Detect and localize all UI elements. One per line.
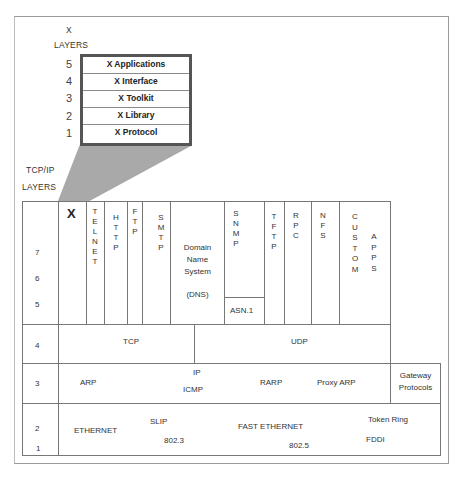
protocol-tftp-cell: T F T P — [264, 201, 285, 325]
layer-number-5: 5 — [35, 300, 39, 309]
protocol-proxy-arp: Proxy ARP — [317, 378, 356, 387]
protocol-tftp: T F T P — [269, 212, 279, 252]
protocol-rpc-cell: R P C — [284, 201, 312, 325]
layer-number-cell-3: 3 — [22, 363, 59, 404]
layer-number-cell-21: 2 1 — [22, 403, 59, 456]
layer-number-3: 3 — [35, 379, 39, 388]
layer-number-2: 2 — [35, 424, 39, 433]
protocol-slip: SLIP — [150, 417, 167, 426]
protocol-asn1: ASN.1 — [230, 306, 253, 315]
dns-label-line3: System — [171, 267, 224, 276]
dns-label-line4: (DNS) — [171, 290, 224, 299]
gateway-protocols-cell: Gateway Protocols — [390, 363, 441, 404]
protocol-http: H T T P — [111, 213, 121, 253]
tcpip-layers-caption-line1: TCP/IP — [26, 165, 55, 175]
protocol-snmp: S N M P — [231, 209, 241, 249]
protocol-x: X — [67, 206, 76, 221]
x-layer-number: 1 — [63, 127, 75, 139]
protocol-custom-apps-cell: C U S T O M A P P S — [339, 201, 391, 325]
protocol-udp: UDP — [291, 337, 308, 346]
protocol-ftp-cell: F T P — [127, 201, 143, 325]
protocol-icmp: ICMP — [183, 385, 203, 394]
x-layer-number: 3 — [63, 92, 75, 104]
protocol-smtp: S M T P — [156, 213, 166, 253]
tcpip-layers-caption-line2: LAYERS — [22, 182, 56, 192]
protocol-nfs-cell: N F S — [311, 201, 340, 325]
link-protocols-cell: ETHERNET SLIP 802.3 FAST ETHERNET 802.5 … — [58, 403, 441, 456]
dns-label-line1: Domain — [171, 243, 224, 252]
x-layer-number: 4 — [63, 75, 75, 87]
protocol-udp-cell: UDP — [194, 324, 391, 364]
protocol-ethernet: ETHERNET — [74, 426, 117, 435]
protocol-telnet: T E L N E T — [90, 207, 100, 267]
protocol-x-cell: X — [58, 201, 87, 325]
protocol-tcp-cell: TCP — [58, 324, 195, 364]
layer-number-cell-765: 7 6 5 — [22, 201, 59, 325]
gateway-label-line2: Protocols — [391, 383, 440, 392]
layer-number-6: 6 — [35, 274, 39, 283]
protocol-smtp-cell: S M T P — [142, 201, 171, 325]
protocol-nfs: N F S — [318, 211, 328, 241]
protocol-fast-ethernet: FAST ETHERNET — [238, 422, 303, 431]
dns-label-line2: Name — [171, 255, 224, 264]
protocol-telnet-cell: T E L N E T — [86, 201, 105, 325]
protocol-asn1-cell: ASN.1 — [224, 297, 265, 325]
protocol-fddi: FDDI — [366, 435, 385, 444]
x-layer-protocol: X Protocol — [83, 125, 189, 141]
x-layer-applications: X Applications — [83, 57, 189, 74]
protocol-apps: A P P S — [369, 232, 379, 274]
x-layers-caption-x: X — [66, 25, 72, 35]
layer-number-1: 1 — [36, 444, 40, 453]
protocol-tcp: TCP — [123, 337, 139, 346]
protocol-rarp: RARP — [260, 378, 282, 387]
protocol-ip: IP — [193, 368, 201, 377]
funnel-shape — [58, 145, 192, 202]
x-layer-interface: X Interface — [83, 74, 189, 91]
x-layer-number: 2 — [63, 110, 75, 122]
protocol-802-3: 802.3 — [164, 436, 184, 445]
layer-number-4: 4 — [35, 341, 39, 350]
protocol-802-5: 802.5 — [289, 441, 309, 450]
layer-number-cell-4: 4 — [22, 324, 59, 364]
x-layers-stack: X Applications X Interface X Toolkit X L… — [80, 54, 192, 146]
protocol-token-ring: Token Ring — [368, 415, 408, 424]
protocol-http-cell: H T T P — [104, 201, 128, 325]
x-layers-caption: LAYERS — [54, 40, 88, 50]
x-layer-number: 5 — [63, 58, 75, 70]
protocol-custom: C U S T O M — [350, 212, 360, 275]
protocol-arp: ARP — [80, 378, 96, 387]
protocol-dns-cell: Domain Name System (DNS) — [170, 201, 225, 325]
network-protocols-cell: ARP IP ICMP RARP Proxy ARP — [58, 363, 391, 404]
gateway-label-line1: Gateway — [391, 371, 440, 380]
protocol-rpc: R P C — [291, 211, 301, 241]
x-layer-toolkit: X Toolkit — [83, 91, 189, 108]
x-layer-library: X Library — [83, 108, 189, 125]
layer-number-7: 7 — [35, 248, 39, 257]
protocol-ftp: F T P — [130, 207, 140, 237]
